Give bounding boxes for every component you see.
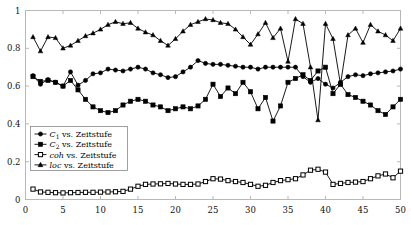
data-point-marker (256, 67, 260, 71)
data-point-marker (106, 110, 110, 114)
data-point-marker (76, 83, 80, 87)
data-point-marker (353, 180, 357, 184)
x-tick-label: 20 (170, 205, 181, 215)
data-point-marker (188, 182, 192, 186)
data-point-marker (376, 109, 380, 113)
data-point-marker (128, 67, 132, 71)
data-point-marker (226, 63, 230, 67)
data-point-marker (128, 187, 132, 191)
legend-entry-label: C1 vs. Zeitstufe (50, 130, 113, 140)
x-tick-label: 50 (395, 205, 406, 215)
data-point-marker (158, 105, 162, 109)
data-point-marker (113, 68, 117, 72)
data-point-marker (151, 182, 155, 186)
data-point-marker (121, 103, 125, 107)
data-point-marker (106, 67, 110, 71)
data-point-marker (166, 181, 170, 185)
data-point-marker (226, 179, 230, 183)
data-point-marker (91, 190, 95, 194)
data-point-marker (226, 86, 230, 90)
data-point-marker (151, 103, 155, 107)
data-point-marker (98, 71, 102, 75)
data-point-marker (293, 65, 297, 69)
legend-label-symbol: coh (50, 151, 64, 160)
x-tick-label: 5 (60, 205, 65, 215)
legend-label-rest: vs. Zeitstufe (61, 161, 114, 170)
data-point-marker (46, 78, 50, 82)
data-point-marker (211, 62, 215, 66)
data-point-marker (271, 65, 275, 69)
data-point-marker (203, 97, 207, 101)
data-point-marker (68, 191, 72, 195)
data-point-marker (346, 75, 350, 79)
data-point-marker (31, 75, 35, 79)
data-point-marker (361, 74, 365, 78)
data-point-marker (196, 58, 200, 62)
data-point-marker (398, 67, 402, 71)
data-point-marker (346, 93, 350, 97)
data-point-marker (158, 73, 162, 77)
data-point-marker (143, 182, 147, 186)
data-point-marker (143, 67, 147, 71)
data-point-marker (181, 182, 185, 186)
data-point-marker (256, 184, 260, 188)
data-point-marker (211, 82, 215, 86)
legend-label-rest: vs. Zeitstufe (59, 130, 112, 139)
data-point-marker (241, 65, 245, 69)
y-tick-label: 0.6 (7, 81, 21, 91)
data-point-marker (136, 184, 140, 188)
data-point-marker (68, 70, 72, 74)
data-point-marker (383, 112, 387, 116)
data-point-marker (68, 78, 72, 82)
data-point-marker (301, 173, 305, 177)
data-point-marker (91, 105, 95, 109)
data-point-marker (301, 73, 305, 77)
data-point-marker (173, 107, 177, 111)
data-point-marker (316, 167, 320, 171)
data-point-marker (241, 180, 245, 184)
data-point-marker (106, 190, 110, 194)
data-point-marker (53, 80, 57, 84)
legend-label-rest: vs. Zeitstufe (64, 151, 117, 160)
data-point-marker (91, 72, 95, 76)
data-point-marker (38, 190, 42, 194)
data-point-marker (391, 69, 395, 73)
data-point-marker (353, 95, 357, 99)
x-tick-label: 35 (283, 205, 294, 215)
y-tick-label: 0.8 (7, 43, 21, 53)
data-point-marker (316, 69, 320, 73)
data-point-marker (256, 107, 260, 111)
x-tick-label: 10 (95, 205, 106, 215)
data-point-marker (278, 65, 282, 69)
data-point-marker (323, 82, 327, 86)
data-point-marker (83, 97, 87, 101)
data-point-marker (166, 109, 170, 113)
legend-entry-label: coh vs. Zeitstufe (50, 151, 117, 160)
data-point-marker (46, 190, 50, 194)
legend-label-symbol: loc (50, 161, 62, 170)
data-point-marker (286, 178, 290, 182)
data-point-marker (61, 191, 65, 195)
data-point-marker (136, 65, 140, 69)
data-point-marker (271, 180, 275, 184)
data-point-marker (331, 182, 335, 186)
data-point-marker (398, 97, 402, 101)
legend-entry-label: loc vs. Zeitstufe (50, 161, 115, 170)
data-point-marker (38, 142, 42, 146)
data-point-marker (391, 176, 395, 180)
data-point-marker (188, 65, 192, 69)
data-point-marker (173, 75, 177, 79)
x-tick-label: 0 (23, 205, 28, 215)
chart-figure: 05101520253035404550 00.20.40.60.81 C1 v… (0, 0, 411, 225)
x-tick-label: 25 (208, 205, 219, 215)
data-point-marker (376, 174, 380, 178)
data-point-marker (38, 153, 42, 157)
data-point-marker (76, 88, 80, 92)
data-point-marker (181, 70, 185, 74)
data-point-marker (173, 182, 177, 186)
data-point-marker (263, 65, 267, 69)
data-point-marker (323, 170, 327, 174)
data-point-marker (361, 179, 365, 183)
data-point-marker (38, 132, 42, 136)
data-point-marker (218, 62, 222, 66)
